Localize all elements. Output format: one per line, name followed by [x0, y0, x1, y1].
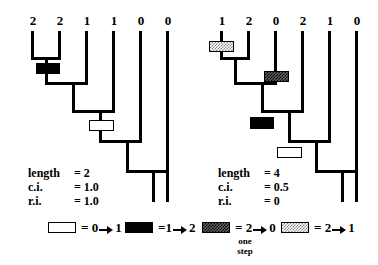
left-tip-label-3: 1: [80, 14, 94, 27]
left-node4-stem: [126, 140, 129, 173]
right-marker-2-to-1: [209, 41, 234, 52]
left-tip-label-4: 1: [107, 14, 121, 27]
arrow-right-icon: [253, 225, 268, 234]
left-tip-label-2: 2: [53, 14, 67, 27]
right-node3-crossbar: [261, 110, 304, 113]
legend-from-0: 0: [92, 220, 99, 235]
legend-text-1-to-2: =12: [158, 219, 195, 236]
right-branch-tip2: [247, 31, 250, 60]
right-marker-0-to-1: [277, 147, 302, 158]
legend-eq-2: =: [235, 220, 242, 235]
left-stats-ri-key: r.i.: [28, 194, 74, 208]
legend-from-3: 2: [325, 220, 332, 235]
right-marker-1-to-2: [250, 117, 274, 129]
left-branch-tip4: [112, 31, 115, 113]
cladogram-figure: 2 2 1 1 0 0 length= 2: [0, 0, 378, 265]
legend-eq-3: =: [314, 220, 321, 235]
left-branch-tip2: [58, 31, 61, 60]
right-stats-ci-key: c.i.: [218, 180, 264, 194]
left-stats-ci-key: c.i.: [28, 180, 74, 194]
right-node2-stem: [261, 82, 264, 113]
legend-swatch-open-box: [48, 222, 76, 233]
right-stats-ci-value: = 0.5: [264, 180, 289, 194]
left-stats-length-value: = 2: [74, 166, 90, 180]
left-marker-0-to-1: [89, 120, 114, 131]
right-stats-ri-key: r.i.: [218, 194, 264, 208]
left-node4-crossbar: [99, 140, 142, 143]
right-branch-tip6: [355, 31, 358, 202]
right-marker-2-to-0: [264, 71, 289, 82]
legend-to-2: 0: [269, 220, 276, 235]
right-root-stem: [341, 170, 344, 202]
left-node2-crossbar: [45, 82, 88, 85]
right-node2-crossbar: [234, 82, 277, 85]
right-branch-tip5: [328, 31, 331, 143]
legend-to-1: 2: [189, 220, 196, 235]
legend-item-2-to-1: = 21: [281, 219, 378, 265]
left-tip-label-6: 0: [161, 14, 175, 27]
right-node1-stem: [234, 57, 237, 85]
right-root-crossbar: [315, 170, 358, 173]
right-node3-stem: [288, 110, 291, 143]
right-tip-label-6: 0: [350, 14, 364, 27]
legend-text-2-to-0: = 20: [235, 219, 276, 236]
left-root-crossbar: [126, 170, 169, 173]
left-tip-label-1: 2: [26, 14, 40, 27]
left-marker-1-to-2: [36, 63, 60, 74]
right-tip-label-2: 2: [242, 14, 256, 27]
arrow-right-icon: [332, 225, 347, 234]
left-root-stem: [152, 170, 155, 202]
legend: = 01 =12 = 20 onestep = 21: [0, 219, 378, 265]
left-branch-tip3: [85, 31, 88, 85]
right-tip-label-3: 0: [269, 14, 283, 27]
left-stats: length= 2 c.i.= 1.0 r.i.= 1.0: [28, 166, 99, 208]
left-node3-crossbar: [72, 110, 115, 113]
right-node4-stem: [315, 140, 318, 173]
right-stats-length-value: = 4: [264, 166, 280, 180]
right-branch-tip4: [301, 31, 304, 113]
arrow-right-icon: [99, 225, 114, 234]
left-branch-tip5: [139, 31, 142, 143]
legend-swatch-dark-box: [202, 222, 230, 233]
right-stats: length= 4 c.i.= 0.5 r.i.= 0: [218, 166, 289, 208]
legend-swatch-light-box: [281, 222, 309, 233]
right-stats-ri-value: = 0: [264, 194, 280, 208]
legend-to-3: 1: [348, 220, 355, 235]
arrow-right-icon: [173, 225, 188, 234]
left-branch-tip6: [166, 31, 169, 202]
right-tip-label-1: 1: [215, 14, 229, 27]
right-tip-label-5: 1: [323, 14, 337, 27]
left-tip-label-5: 0: [134, 14, 148, 27]
right-node4-crossbar: [288, 140, 331, 143]
legend-note-one-step: onestep: [228, 236, 262, 256]
legend-from-2: 2: [246, 220, 253, 235]
legend-from-1: 1: [165, 220, 172, 235]
right-stats-length-key: length: [218, 166, 264, 180]
legend-text-0-to-1: = 01: [81, 219, 122, 236]
legend-to-0: 1: [115, 220, 122, 235]
left-node2-stem: [72, 82, 75, 113]
left-stats-ri-value: = 1.0: [74, 194, 99, 208]
left-stats-length-key: length: [28, 166, 74, 180]
left-stats-ci-value: = 1.0: [74, 180, 99, 194]
legend-text-2-to-1: = 21: [314, 219, 355, 236]
right-tip-label-4: 2: [296, 14, 310, 27]
legend-eq-0: =: [81, 220, 88, 235]
legend-swatch-black-box: [125, 222, 153, 233]
left-branch-tip1: [31, 31, 34, 60]
